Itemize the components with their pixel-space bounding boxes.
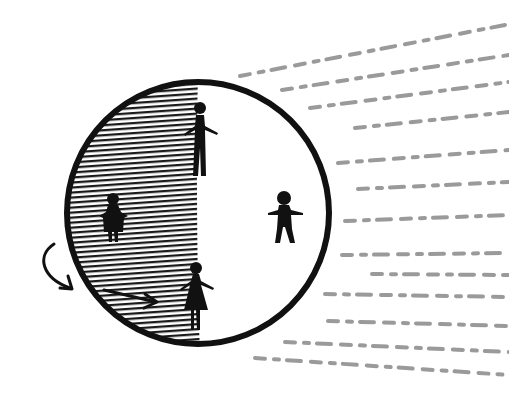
person-icon-day-side [268, 191, 303, 243]
earth-day-night-illustration [0, 0, 509, 403]
night-side-shading [60, 78, 200, 350]
rotation-arrow-icon [44, 244, 72, 289]
